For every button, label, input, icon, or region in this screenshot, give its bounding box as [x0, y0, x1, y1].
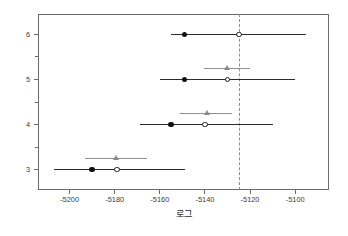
x-tick-label: -5160	[140, 195, 180, 204]
x-tick-label: -5180	[95, 195, 135, 204]
y-tick-label: 6	[12, 30, 30, 39]
x-tick-mark	[295, 190, 296, 194]
y-tick-label: 3	[12, 165, 30, 174]
y-tick-mark	[34, 169, 38, 170]
open-circle-marker	[202, 122, 208, 128]
x-tick-mark	[69, 190, 70, 194]
plot-panel	[38, 14, 329, 190]
x-axis-title: 로그	[38, 209, 329, 220]
x-tick-label: -5200	[50, 195, 90, 204]
y-minor-tick-mark	[35, 56, 38, 57]
y-tick-mark	[34, 79, 38, 80]
x-tick-mark	[250, 190, 251, 194]
triangle-marker	[204, 110, 210, 115]
y-tick-label: 4	[12, 120, 30, 129]
x-tick-label: -5140	[185, 195, 225, 204]
triangle-marker	[113, 155, 119, 160]
x-tick-label: -5100	[275, 195, 315, 204]
open-circle-marker	[236, 32, 242, 38]
filled-circle-marker	[168, 122, 173, 127]
y-minor-tick-mark	[35, 102, 38, 103]
x-tick-mark	[114, 190, 115, 194]
chart-container: -5200-5180-5160-5140-5120-5100 3456 로그	[0, 0, 348, 236]
x-tick-mark	[204, 190, 205, 194]
triangle-marker	[224, 65, 230, 70]
y-tick-label: 5	[12, 75, 30, 84]
y-minor-tick-mark	[35, 147, 38, 148]
x-tick-mark	[159, 190, 160, 194]
y-tick-mark	[34, 124, 38, 125]
reference-line	[239, 14, 240, 190]
y-tick-mark	[34, 34, 38, 35]
x-tick-label: -5120	[230, 195, 270, 204]
